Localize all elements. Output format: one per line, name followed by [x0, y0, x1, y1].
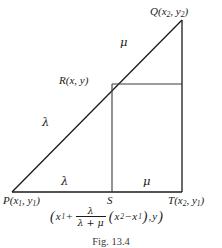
segment-hypotenuse-PQ: [12, 20, 182, 192]
ratio-label-mu-hypotenuse: μ: [120, 37, 127, 49]
point-P-close: ): [36, 194, 40, 206]
point-label-P: P(x1, y1): [3, 195, 40, 208]
expr-fraction-numerator: λ: [86, 206, 96, 216]
point-label-R: R(x, y): [59, 75, 88, 86]
expr-plus: +: [66, 211, 72, 222]
point-label-Q: Q(x2, y2): [150, 6, 188, 19]
expr-y: y: [152, 211, 157, 222]
ratio-label-lambda-base: λ: [61, 176, 68, 188]
point-Q-close: ): [184, 5, 188, 17]
expr-close-paren: ): [158, 210, 163, 224]
figure-container: Q(x2, y2) R(x, y) P(x1, y1) S T(x2, y1) …: [0, 0, 222, 248]
expr-x2: x: [114, 211, 119, 222]
point-R-close: ): [85, 74, 89, 86]
expr-x1: x: [56, 211, 61, 222]
expr-minus: −: [125, 211, 131, 222]
ratio-label-lambda-hypotenuse: λ: [42, 117, 49, 129]
expr-comma: ,: [149, 211, 152, 222]
expr-open-paren: (: [50, 210, 55, 224]
expr-x1-sub: 1: [62, 213, 66, 220]
expr-group-close: ): [143, 210, 148, 224]
point-P-name: P: [3, 194, 10, 206]
point-label-S: S: [107, 195, 113, 206]
expr-fraction: λ λ + μ: [76, 206, 106, 227]
point-label-T: T(x2, y1): [168, 195, 204, 208]
expr-group-open: (: [109, 210, 114, 224]
coordinate-expression: (x1 + λ λ + μ (x2−x1), y): [50, 206, 163, 227]
point-R-name: R: [59, 74, 66, 86]
expr-x2-sub: 2: [120, 213, 124, 220]
expr-x1b: x: [132, 211, 137, 222]
point-Q-name: Q: [150, 5, 158, 17]
point-T-close: ): [201, 194, 205, 206]
ratio-label-mu-base: μ: [143, 176, 150, 188]
expr-x1b-sub: 1: [138, 213, 142, 220]
expr-fraction-denominator: λ + μ: [76, 217, 106, 227]
figure-caption: Fig. 13.4: [0, 236, 222, 247]
